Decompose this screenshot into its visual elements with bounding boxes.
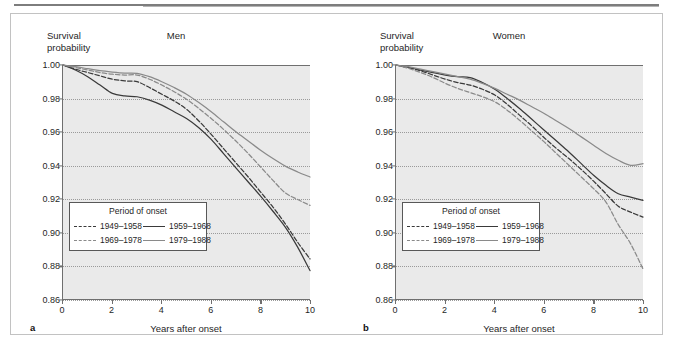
gridline xyxy=(63,300,310,301)
legend-item: 1969–1978 xyxy=(74,235,142,245)
series-line xyxy=(396,65,643,217)
x-tick-label: 4 xyxy=(146,305,176,315)
y-tick-label: 0.90 xyxy=(20,228,60,238)
y-tick-mark xyxy=(392,199,395,200)
x-tick-mark xyxy=(445,300,446,304)
plot-area xyxy=(395,65,643,300)
legend-item-label: 1949–1958 xyxy=(433,221,475,231)
x-tick-label: 10 xyxy=(295,305,325,315)
legend-line-icon xyxy=(407,226,429,227)
legend: Period of onset 1949–1958 1959–1968 1969… xyxy=(402,202,540,251)
y-tick-label: 0.90 xyxy=(353,228,393,238)
figure-root: Survival probability Men 0.860.880.900.9… xyxy=(0,0,673,345)
y-tick-label: 1.00 xyxy=(353,60,393,70)
legend-item-label: 1979–1988 xyxy=(502,235,544,245)
x-tick-label: 8 xyxy=(245,305,275,315)
y-tick-label: 1.00 xyxy=(20,60,60,70)
y-tick-label: 0.94 xyxy=(353,161,393,171)
x-tick-label: 2 xyxy=(97,305,127,315)
y-tick-mark xyxy=(59,199,62,200)
y-tick-mark xyxy=(59,132,62,133)
series-layer xyxy=(63,65,310,299)
series-line xyxy=(63,65,310,205)
legend-line-icon xyxy=(143,240,165,241)
legend-item-label: 1969–1978 xyxy=(100,235,142,245)
x-tick-label: 10 xyxy=(628,305,658,315)
figure-frame: Survival probability Men 0.860.880.900.9… xyxy=(10,13,663,335)
x-axis-title: Years after onset xyxy=(62,323,310,334)
y-tick-mark xyxy=(59,98,62,99)
y-tick-label: 0.94 xyxy=(20,161,60,171)
x-tick-mark xyxy=(643,300,644,304)
y-tick-label: 0.96 xyxy=(20,127,60,137)
y-tick-label: 0.86 xyxy=(20,295,60,305)
legend: Period of onset 1949–1958 1959–1968 1969… xyxy=(69,202,207,251)
y-tick-mark xyxy=(59,232,62,233)
y-tick-label: 0.88 xyxy=(353,261,393,271)
x-axis-title: Years after onset xyxy=(395,323,643,334)
x-tick-label: 6 xyxy=(196,305,226,315)
x-tick-mark xyxy=(112,300,113,304)
legend-title: Period of onset xyxy=(70,206,206,216)
y-tick-mark xyxy=(59,165,62,166)
x-tick-mark xyxy=(395,300,396,304)
x-tick-label: 2 xyxy=(430,305,460,315)
panel-letter: a xyxy=(30,322,35,333)
series-line xyxy=(396,65,643,200)
series-line xyxy=(63,65,310,177)
y-tick-mark xyxy=(392,165,395,166)
legend-line-icon xyxy=(74,240,96,241)
legend-line-icon xyxy=(476,226,498,227)
y-tick-label: 0.88 xyxy=(20,261,60,271)
series-layer xyxy=(396,65,643,299)
x-tick-label: 0 xyxy=(380,305,410,315)
x-tick-mark xyxy=(211,300,212,304)
panel-letter: b xyxy=(363,322,369,333)
panel-women: Survival probability Women 0.860.880.900… xyxy=(354,14,673,336)
top-rule-secondary xyxy=(143,6,659,7)
legend-line-icon xyxy=(143,226,165,227)
y-tick-mark xyxy=(392,98,395,99)
x-tick-label: 6 xyxy=(529,305,559,315)
legend-item: 1959–1968 xyxy=(143,221,211,231)
legend-item-label: 1979–1988 xyxy=(169,235,211,245)
legend-item-label: 1959–1968 xyxy=(502,221,544,231)
legend-item-label: 1969–1978 xyxy=(433,235,475,245)
y-tick-mark xyxy=(392,64,395,65)
x-tick-mark xyxy=(260,300,261,304)
plot-area xyxy=(62,65,310,300)
x-tick-mark xyxy=(161,300,162,304)
y-tick-label: 0.96 xyxy=(353,127,393,137)
legend-item: 1969–1978 xyxy=(407,235,475,245)
x-tick-label: 8 xyxy=(578,305,608,315)
y-tick-mark xyxy=(392,132,395,133)
legend-item: 1949–1958 xyxy=(74,221,142,231)
x-tick-mark xyxy=(544,300,545,304)
y-tick-label: 0.98 xyxy=(20,94,60,104)
y-tick-mark xyxy=(59,64,62,65)
y-tick-label: 0.92 xyxy=(20,194,60,204)
legend-item: 1959–1968 xyxy=(476,221,544,231)
y-tick-label: 0.92 xyxy=(353,194,393,204)
y-tick-label: 0.86 xyxy=(353,295,393,305)
gridline xyxy=(396,300,643,301)
legend-item-label: 1959–1968 xyxy=(169,221,211,231)
panel-men: Survival probability Men 0.860.880.900.9… xyxy=(21,14,354,336)
x-tick-label: 0 xyxy=(47,305,77,315)
legend-line-icon xyxy=(407,240,429,241)
legend-line-icon xyxy=(74,226,96,227)
legend-item: 1979–1988 xyxy=(143,235,211,245)
legend-item-label: 1949–1958 xyxy=(100,221,142,231)
x-tick-mark xyxy=(62,300,63,304)
y-tick-mark xyxy=(59,266,62,267)
legend-line-icon xyxy=(476,240,498,241)
y-tick-mark xyxy=(392,266,395,267)
panel-title: Men xyxy=(21,30,331,41)
legend-item: 1979–1988 xyxy=(476,235,544,245)
panel-title: Women xyxy=(354,30,664,41)
x-tick-mark xyxy=(494,300,495,304)
y-tick-label: 0.98 xyxy=(353,94,393,104)
legend-title: Period of onset xyxy=(403,206,539,216)
x-tick-mark xyxy=(310,300,311,304)
x-tick-label: 4 xyxy=(479,305,509,315)
